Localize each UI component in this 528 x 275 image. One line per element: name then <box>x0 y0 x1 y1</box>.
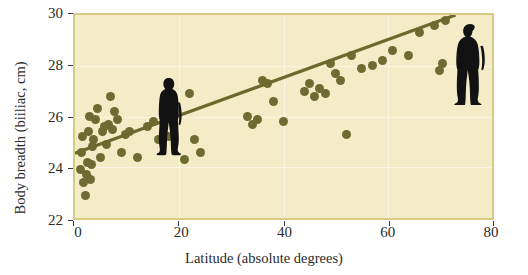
x-tick-mark-0 <box>73 221 74 226</box>
scatter-point <box>89 135 98 144</box>
scatter-plot-figure: Body breadth (biiliac, cm) 30 28 26 24 2… <box>0 0 528 275</box>
scatter-point <box>253 115 262 124</box>
scatter-point <box>125 127 134 136</box>
scatter-point <box>86 175 95 184</box>
x-tick-label-0: 0 <box>74 224 82 241</box>
scatter-point <box>77 148 86 157</box>
gridline-y-24 <box>75 167 492 168</box>
scatter-point <box>102 140 111 149</box>
scatter-point <box>388 46 397 55</box>
scatter-point <box>133 153 142 162</box>
scatter-point <box>113 115 122 124</box>
scatter-point <box>378 56 387 65</box>
stocky-arctic-human-silhouette <box>450 23 490 105</box>
x-tick-mark-20 <box>178 221 179 226</box>
slim-tropical-human-silhouette <box>152 76 186 162</box>
scatter-point <box>91 115 100 124</box>
scatter-point <box>357 64 366 73</box>
x-tick-label-20: 20 <box>174 224 189 241</box>
scatter-point <box>430 21 439 30</box>
scatter-point <box>185 89 194 98</box>
x-tick-mark-80 <box>493 221 494 226</box>
x-tick-mark-60 <box>389 221 390 226</box>
scatter-point <box>300 87 309 96</box>
gridline-y-28 <box>75 66 492 67</box>
scatter-point <box>342 130 351 139</box>
scatter-point <box>81 191 90 200</box>
scatter-point <box>336 76 345 85</box>
scatter-point <box>117 148 126 157</box>
scatter-point <box>269 97 278 106</box>
plot-panel <box>73 13 494 220</box>
scatter-point <box>310 92 319 101</box>
scatter-point <box>93 104 102 113</box>
x-tick-label-80: 80 <box>484 224 499 241</box>
scatter-point <box>305 79 314 88</box>
scatter-point <box>263 79 272 88</box>
scatter-point <box>106 92 115 101</box>
scatter-point <box>326 59 335 68</box>
scatter-point <box>441 16 450 25</box>
scatter-point <box>108 125 117 134</box>
scatter-point <box>415 28 424 37</box>
scatter-point <box>368 61 377 70</box>
scatter-point <box>190 135 199 144</box>
x-tick-label-60: 60 <box>380 224 395 241</box>
scatter-point <box>347 51 356 60</box>
x-tick-mark-40 <box>284 221 285 226</box>
x-tick-label-40: 40 <box>277 224 292 241</box>
plot-inner <box>75 15 492 218</box>
scatter-point <box>196 148 205 157</box>
scatter-point <box>279 117 288 126</box>
scatter-point <box>404 51 413 60</box>
scatter-point <box>321 89 330 98</box>
x-axis-title: Latitude (absolute degrees) <box>0 250 528 267</box>
scatter-point <box>96 153 105 162</box>
scatter-point <box>438 59 447 68</box>
